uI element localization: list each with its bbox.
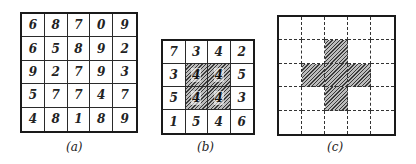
- hatched-cell: [325, 40, 348, 63]
- grid-cell: [348, 17, 371, 40]
- grid-cell: [348, 40, 371, 63]
- grid-cell: 9: [90, 61, 113, 84]
- grid-cell: 4: [22, 108, 45, 131]
- cell-value: 4: [191, 68, 201, 82]
- cell-value: 2: [238, 45, 246, 59]
- grid-cell: [279, 17, 302, 40]
- grid-cell: 5: [163, 87, 186, 110]
- cell-value: 7: [52, 88, 60, 102]
- cell-value: 5: [238, 68, 246, 82]
- grid-cell: 7: [45, 84, 68, 107]
- grid-cell: [302, 40, 325, 63]
- number-grid-a: 6870965892927935774748189: [20, 12, 138, 133]
- grid-cell: [279, 111, 302, 134]
- cell-value: 4: [215, 45, 223, 59]
- cell-value: 9: [29, 65, 37, 79]
- grid-cell: 2: [45, 61, 68, 84]
- grid-cell: 7: [68, 61, 91, 84]
- grid-cell: 5: [22, 84, 45, 107]
- cell-value: 3: [238, 91, 246, 105]
- grid-cell: [371, 40, 394, 63]
- cell-value: 5: [52, 42, 60, 56]
- number-grid-b: 7342344554431546: [161, 39, 255, 135]
- cell-value: 8: [52, 18, 60, 32]
- cell-value: 8: [97, 112, 105, 126]
- cell-value: 4: [215, 115, 223, 129]
- caption-c: (c): [327, 140, 343, 154]
- grid-cell: [302, 17, 325, 40]
- cell-value: 8: [74, 42, 82, 56]
- grid-cell: 7: [163, 41, 186, 64]
- cell-value: 4: [29, 112, 37, 126]
- cell-value: 9: [97, 65, 105, 79]
- grid-cell: 5: [231, 64, 254, 87]
- grid-cell: 3: [113, 61, 136, 84]
- caption-b: (b): [197, 140, 214, 154]
- grid-cell: [279, 40, 302, 63]
- grid-cell: [279, 64, 302, 87]
- cell-value: 7: [120, 88, 128, 102]
- grid-cell: 6: [22, 37, 45, 60]
- grid-cell: 9: [113, 108, 136, 131]
- grid-cell: [371, 64, 394, 87]
- cell-value: 9: [120, 18, 128, 32]
- cell-value: 4: [214, 91, 224, 105]
- cell-value: 8: [52, 112, 60, 126]
- grid-cell: 4: [208, 41, 231, 64]
- grid-cell: 3: [231, 87, 254, 110]
- grid-cell: [279, 87, 302, 110]
- hatched-cell: 4: [186, 64, 209, 87]
- grid-cell: 5: [186, 110, 209, 133]
- grid-cell: [348, 111, 371, 134]
- cell-value: 2: [120, 42, 128, 56]
- cell-value: 7: [74, 88, 82, 102]
- hatched-cell: 4: [186, 87, 209, 110]
- grid-cell: [325, 111, 348, 134]
- cell-value: 6: [29, 18, 37, 32]
- cell-value: 6: [29, 42, 37, 56]
- caption-a: (a): [66, 140, 83, 154]
- grid-cell: 7: [68, 84, 91, 107]
- cell-value: 4: [97, 88, 105, 102]
- cell-value: 7: [170, 45, 178, 59]
- grid-cell: 3: [186, 41, 209, 64]
- grid-cell: 0: [90, 14, 113, 37]
- template-grid-c: [277, 15, 396, 136]
- grid-cell: 1: [68, 108, 91, 131]
- cell-value: 1: [170, 115, 178, 129]
- hatched-cell: [302, 64, 325, 87]
- hatched-cell: 4: [208, 87, 231, 110]
- grid-cell: 5: [45, 37, 68, 60]
- cell-value: 3: [120, 65, 128, 79]
- hatched-cell: [325, 87, 348, 110]
- grid-cell: 4: [90, 84, 113, 107]
- cell-value: 4: [191, 91, 201, 105]
- grid-cell: 1: [163, 110, 186, 133]
- grid-cell: [371, 17, 394, 40]
- cell-value: 1: [74, 112, 82, 126]
- grid-cell: 7: [113, 84, 136, 107]
- cell-value: 9: [120, 112, 128, 126]
- cell-value: 6: [238, 115, 246, 129]
- cell-value: 3: [192, 45, 200, 59]
- cell-value: 9: [97, 42, 105, 56]
- grid-cell: 8: [45, 108, 68, 131]
- grid-cell: [371, 111, 394, 134]
- grid-cell: 8: [68, 37, 91, 60]
- hatched-cell: [325, 64, 348, 87]
- grid-cell: 6: [231, 110, 254, 133]
- cell-value: 5: [29, 88, 37, 102]
- grid-cell: 6: [22, 14, 45, 37]
- grid-cell: [325, 17, 348, 40]
- grid-cell: [302, 87, 325, 110]
- cell-value: 4: [214, 68, 224, 82]
- cell-value: 3: [170, 68, 178, 82]
- grid-cell: 4: [208, 110, 231, 133]
- grid-cell: [371, 87, 394, 110]
- grid-cell: 8: [45, 14, 68, 37]
- grid-cell: [302, 111, 325, 134]
- cell-value: 0: [97, 18, 105, 32]
- grid-cell: 2: [231, 41, 254, 64]
- hatched-cell: 4: [208, 64, 231, 87]
- cell-value: 5: [170, 91, 178, 105]
